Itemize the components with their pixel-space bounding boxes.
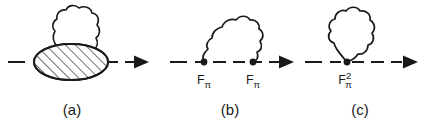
panel-b-vertex-right [250,59,257,66]
panel-b-wavy-arc [203,16,263,62]
panel-a-arrow-icon [131,56,149,69]
panel-c-wavy-teardrop-loop [329,7,375,62]
pi-subscript: π [254,79,261,90]
feynman-diagram-figure: (a) Fπ Fπ (b [0,0,435,128]
panel-b-vertex-label-left: Fπ [197,73,212,90]
panel-a: (a) [8,6,149,118]
panel-c-caption: (c) [351,101,369,118]
panel-b-vertex-left [201,59,208,66]
panel-c: F2π (c) [305,7,418,118]
pi-subscript: π [205,79,212,90]
panel-a-hatched-ellipse [34,44,108,80]
panel-c-vertex-label: F2π [338,70,352,90]
panel-c-arrow-icon [403,56,418,69]
panel-b-vertex-label-right: Fπ [246,73,261,90]
panel-c-vertex [344,59,351,66]
pi-subscript: π [345,79,352,90]
panel-b-arrow-icon [279,56,294,69]
panel-a-caption: (a) [63,101,81,118]
panel-b: Fπ Fπ (b) [170,16,294,118]
panel-b-caption: (b) [221,101,239,118]
figure-container: (a) Fπ Fπ (b [0,0,435,128]
